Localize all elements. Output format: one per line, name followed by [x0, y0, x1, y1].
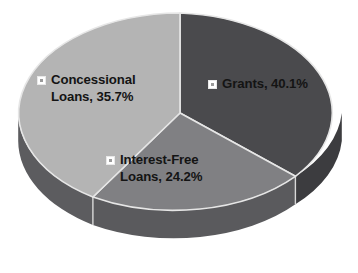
- slice-label-text: Grants, 40.1%: [222, 76, 308, 93]
- slice-label-line-1: Grants, 40.1%: [222, 76, 308, 93]
- square-marker-icon: [208, 80, 217, 89]
- slice-label-interest-free-loans: Interest-Free Loans, 24.2%: [106, 152, 204, 185]
- square-marker-icon: [37, 76, 46, 85]
- slice-label-text: Interest-Free Loans, 24.2%: [120, 152, 204, 185]
- pie-chart: Concessional Loans, 35.7% Grants, 40.1% …: [0, 0, 358, 273]
- slice-label-concessional-loans: Concessional Loans, 35.7%: [37, 72, 136, 105]
- slice-label-line-1: Interest-Free: [120, 152, 204, 169]
- slice-label-text: Concessional Loans, 35.7%: [51, 72, 136, 105]
- slice-label-grants: Grants, 40.1%: [208, 76, 308, 93]
- pie-chart-graphic: [0, 0, 358, 273]
- slice-label-line-1: Concessional: [51, 72, 136, 89]
- square-marker-icon: [106, 156, 115, 165]
- slice-label-line-2: Loans, 24.2%: [120, 169, 204, 186]
- slice-label-line-2: Loans, 35.7%: [51, 89, 136, 106]
